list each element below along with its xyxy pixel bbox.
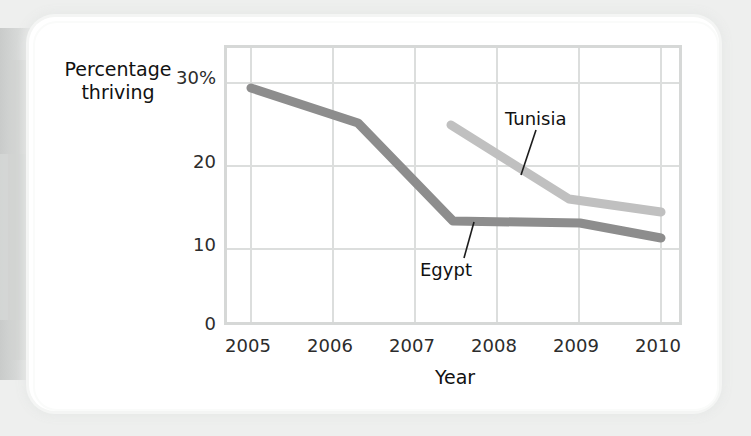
x-tick-2010: 2010 bbox=[618, 335, 698, 356]
x-axis-label: Year bbox=[365, 366, 545, 388]
x-tick-2008: 2008 bbox=[454, 335, 534, 356]
x-tick-2009: 2009 bbox=[536, 335, 616, 356]
x-tick-2005: 2005 bbox=[208, 335, 288, 356]
x-tick-2007: 2007 bbox=[372, 335, 452, 356]
series-label-tunisia: Tunisia bbox=[505, 108, 567, 129]
leader-line-egypt bbox=[464, 222, 474, 258]
figure-container: Percentage thriving 30% 20 10 0 Tunisia … bbox=[0, 0, 751, 436]
series-label-egypt: Egypt bbox=[420, 259, 472, 280]
x-tick-2006: 2006 bbox=[290, 335, 370, 356]
leader-line-tunisia bbox=[521, 130, 536, 175]
